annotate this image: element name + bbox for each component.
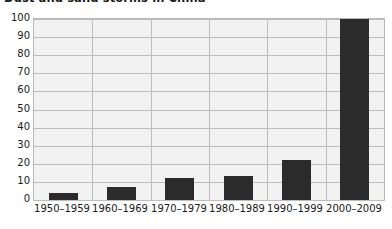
bar	[282, 160, 311, 200]
x-axis-tick-label: 1970–1979	[150, 203, 208, 215]
x-axis: 1950–19591960–19691970–19791980–19891990…	[33, 203, 385, 223]
y-axis-tick-label: 60	[0, 85, 30, 95]
bar-chart-figure: Dust and sand storms in China 0102030405…	[0, 0, 392, 229]
gridline-vertical	[209, 19, 210, 200]
gridline-vertical	[326, 19, 327, 200]
y-axis-tick-label: 40	[0, 122, 30, 132]
bar	[340, 19, 369, 200]
x-axis-tick-label: 1960–1969	[91, 203, 149, 215]
gridline-horizontal	[34, 200, 384, 201]
gridline-vertical	[92, 19, 93, 200]
x-axis-tick-label: 2000–2009	[325, 203, 383, 215]
chart-title: Dust and sand storms in China	[4, 0, 206, 5]
x-axis-tick-label: 1950–1959	[33, 203, 91, 215]
bar	[49, 193, 78, 200]
y-axis-tick-label: 20	[0, 158, 30, 168]
y-axis-tick-label: 50	[0, 104, 30, 114]
plot-area	[33, 18, 385, 201]
bar	[107, 187, 136, 200]
x-axis-tick-label: 1980–1989	[208, 203, 266, 215]
y-axis-tick-label: 0	[0, 194, 30, 204]
y-axis-tick-label: 90	[0, 31, 30, 41]
bar	[224, 176, 253, 200]
y-axis-tick-label: 10	[0, 176, 30, 186]
x-axis-tick-label: 1990–1999	[266, 203, 324, 215]
y-axis-tick-label: 80	[0, 49, 30, 59]
y-axis: 0102030405060708090100	[0, 18, 30, 201]
y-axis-tick-label: 30	[0, 140, 30, 150]
y-axis-tick-label: 100	[0, 13, 30, 23]
gridline-vertical	[267, 19, 268, 200]
gridline-vertical	[151, 19, 152, 200]
y-axis-tick-label: 70	[0, 67, 30, 77]
bar	[165, 178, 194, 200]
